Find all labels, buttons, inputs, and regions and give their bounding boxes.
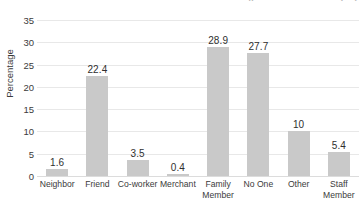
bar-value-label: 28.9 <box>208 35 228 46</box>
x-axis-category-labels: NeighborFriendCo-workerMerchantFamily Me… <box>37 179 359 209</box>
y-axis-tick-labels: 05101520253035 <box>14 16 34 176</box>
bar-value-label: 5.4 <box>332 140 346 151</box>
y-axis-tick-10: 10 <box>23 126 34 137</box>
x-axis-label: Co-worker <box>118 179 158 209</box>
y-axis-tick-15: 15 <box>23 104 34 115</box>
bar[interactable] <box>328 152 350 176</box>
bar-value-label: 27.7 <box>248 41 268 52</box>
bar-slot: 28.9 <box>198 20 238 176</box>
x-axis-label: Family Member <box>198 179 238 209</box>
y-axis-title: Percentage <box>4 29 15 119</box>
bar-slot: 3.5 <box>118 20 158 176</box>
bar[interactable] <box>167 174 189 176</box>
y-axis-tick-0: 0 <box>29 171 34 182</box>
bar-value-label: 1.6 <box>50 157 64 168</box>
bar-slot: 0.4 <box>158 20 198 176</box>
bar-slot: 5.4 <box>319 20 359 176</box>
y-axis-tick-5: 5 <box>29 148 34 159</box>
bar-chart: Percentage 05101520253035 1.622.43.50.42… <box>0 0 361 209</box>
x-axis-label: No One <box>238 179 278 209</box>
x-axis-label: Staff Member <box>319 179 359 209</box>
bar[interactable] <box>207 47 229 176</box>
x-axis-label: Friend <box>77 179 117 209</box>
bar-value-label: 22.4 <box>87 64 107 75</box>
bar[interactable] <box>86 76 108 176</box>
y-axis-tick-30: 30 <box>23 37 34 48</box>
y-axis-tick-35: 35 <box>23 15 34 26</box>
bar-slot: 22.4 <box>77 20 117 176</box>
bar-slot: 1.6 <box>37 20 77 176</box>
axis-baseline <box>37 176 359 177</box>
bar[interactable] <box>46 169 68 176</box>
plot-area: 1.622.43.50.428.927.7105.4 <box>37 20 359 176</box>
bar-slot: 27.7 <box>238 20 278 176</box>
bar[interactable] <box>127 160 149 176</box>
y-axis-tick-20: 20 <box>23 81 34 92</box>
bar-value-label: 0.4 <box>171 162 185 173</box>
bar-series: 1.622.43.50.428.927.7105.4 <box>37 20 359 176</box>
bar[interactable] <box>247 53 269 176</box>
x-axis-label: Merchant <box>158 179 198 209</box>
x-axis-label: Other <box>279 179 319 209</box>
bar-value-label: 3.5 <box>131 148 145 159</box>
bar-value-label: 10 <box>293 119 304 130</box>
y-axis-tick-25: 25 <box>23 59 34 70</box>
bar[interactable] <box>288 131 310 176</box>
x-axis-label: Neighbor <box>37 179 77 209</box>
bar-slot: 10 <box>279 20 319 176</box>
